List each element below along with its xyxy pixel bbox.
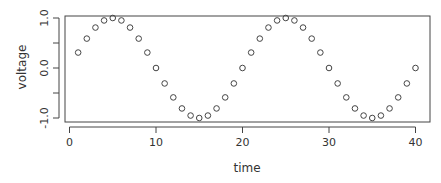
x-tick-label: 20 bbox=[236, 136, 250, 149]
data-point bbox=[413, 65, 419, 71]
data-point bbox=[231, 81, 237, 87]
x-tick-label: 30 bbox=[322, 136, 336, 149]
data-point bbox=[326, 65, 332, 71]
y-tick-label: -1.0 bbox=[38, 107, 51, 128]
data-point bbox=[93, 25, 99, 31]
data-point bbox=[404, 81, 410, 87]
data-point bbox=[274, 18, 280, 24]
x-axis: 010203040 bbox=[66, 127, 423, 149]
data-point bbox=[188, 113, 194, 119]
y-axis: -1.00.01.0 bbox=[38, 9, 59, 128]
data-point bbox=[119, 18, 125, 24]
data-point bbox=[387, 106, 393, 112]
x-tick-label: 10 bbox=[149, 136, 163, 149]
data-point bbox=[318, 50, 324, 56]
data-point bbox=[266, 25, 272, 31]
data-point bbox=[248, 50, 254, 56]
data-points bbox=[75, 15, 418, 121]
data-point bbox=[75, 50, 81, 56]
data-point bbox=[84, 36, 90, 42]
data-point bbox=[309, 36, 315, 42]
data-point bbox=[171, 95, 177, 101]
y-tick-label: 1.0 bbox=[38, 9, 51, 27]
y-axis-title: voltage bbox=[15, 45, 29, 90]
y-tick-label: 0.0 bbox=[38, 59, 51, 77]
data-point bbox=[214, 106, 220, 112]
data-point bbox=[205, 113, 211, 119]
data-point bbox=[300, 25, 306, 31]
data-point bbox=[179, 106, 185, 112]
data-point bbox=[162, 81, 168, 87]
data-point bbox=[352, 106, 358, 112]
plot-box bbox=[65, 16, 430, 122]
data-point bbox=[240, 65, 246, 71]
data-point bbox=[136, 36, 142, 42]
x-axis-title: time bbox=[233, 161, 260, 175]
scatter-chart: -1.00.01.0 010203040 time voltage bbox=[0, 0, 441, 183]
data-point bbox=[101, 18, 107, 24]
data-point bbox=[127, 25, 133, 31]
data-point bbox=[257, 36, 263, 42]
data-point bbox=[196, 115, 202, 121]
data-point bbox=[361, 113, 367, 119]
data-point bbox=[145, 50, 151, 56]
x-tick-label: 0 bbox=[66, 136, 73, 149]
data-point bbox=[378, 113, 384, 119]
data-point bbox=[335, 81, 341, 87]
x-tick-label: 40 bbox=[409, 136, 423, 149]
data-point bbox=[292, 18, 298, 24]
data-point bbox=[222, 95, 228, 101]
data-point bbox=[153, 65, 159, 71]
data-point bbox=[395, 95, 401, 101]
data-point bbox=[344, 95, 350, 101]
data-point bbox=[369, 115, 375, 121]
